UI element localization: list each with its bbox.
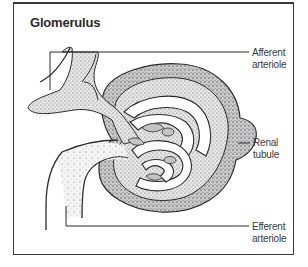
renal-label-line2: tubule	[253, 149, 279, 161]
afferent-arteriole-label: Afferent arteriole	[252, 47, 286, 71]
afferent-label-line2: arteriole	[252, 59, 286, 71]
renal-label-line1: Renal	[253, 137, 279, 149]
afferent-label-line1: Afferent	[252, 47, 286, 59]
efferent-label-line1: Efferent	[252, 221, 286, 233]
efferent-arteriole-label: Efferent arteriole	[252, 221, 286, 245]
efferent-label-line2: arteriole	[252, 233, 286, 245]
renal-tubule-label: Renal tubule	[253, 137, 279, 161]
